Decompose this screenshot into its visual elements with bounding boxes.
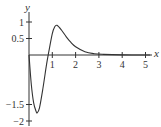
x-tick-label: 5 bbox=[143, 59, 148, 70]
y-tick-label: 0.5 bbox=[12, 33, 25, 44]
y-ticks: 10.5−1.5−2 bbox=[6, 17, 32, 127]
y-axis-label: y bbox=[24, 1, 30, 13]
chart: y x 12345 10.5−1.5−2 bbox=[0, 0, 161, 127]
x-tick-label: 1 bbox=[50, 59, 55, 70]
x-tick-label: 3 bbox=[96, 59, 101, 70]
x-axis-label: x bbox=[153, 47, 159, 59]
y-tick-label: −2 bbox=[13, 116, 24, 127]
x-tick-label: 2 bbox=[73, 59, 78, 70]
x-tick-label: 4 bbox=[120, 59, 125, 70]
y-tick-label: −1.5 bbox=[6, 99, 24, 110]
data-curve bbox=[29, 25, 150, 113]
y-tick-label: 1 bbox=[19, 17, 24, 28]
